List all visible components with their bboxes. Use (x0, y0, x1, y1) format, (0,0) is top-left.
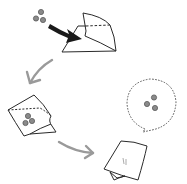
gray-arrow-right-icon (59, 142, 93, 158)
thought-bubble (127, 79, 176, 132)
beads-step2 (23, 113, 35, 125)
beads-step1 (33, 9, 45, 22)
diagram-canvas (0, 0, 187, 184)
beads-bubble (144, 95, 157, 111)
gray-arrow-down-left-icon (27, 60, 52, 83)
folded-packet-with-beads (8, 95, 56, 136)
flat-packet (104, 141, 147, 180)
